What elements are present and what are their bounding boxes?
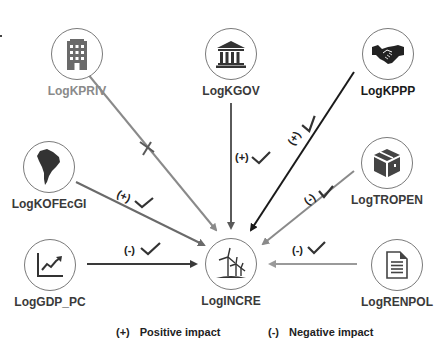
- edge-artifact: [0, 35, 2, 37]
- node-kgov: LogKGOV: [186, 28, 276, 98]
- check-icon-tropen: [319, 186, 333, 197]
- node-gdp: LogGDP_PC: [5, 239, 95, 309]
- box-icon: [373, 148, 401, 178]
- south-america-map-icon: [37, 149, 61, 185]
- node-circle: [23, 141, 75, 193]
- node-circle: [205, 238, 257, 290]
- check-icon-kofecgi: [135, 198, 153, 207]
- node-label: LogKGOV: [186, 84, 276, 98]
- node-circle: [205, 28, 257, 80]
- check-icon-kgov: [252, 152, 270, 163]
- check-icon-kppp: [301, 116, 317, 132]
- legend-positive-symbol: (+): [116, 326, 130, 338]
- check-icon-gdp: [141, 243, 160, 254]
- node-kofecgi: LogKOFEcGI: [4, 141, 94, 211]
- node-label: LogKPRIV: [32, 84, 122, 98]
- node-circle: [371, 239, 423, 291]
- legend-negative-text: Negative impact: [289, 326, 373, 338]
- check-icon-renpol: [308, 242, 325, 253]
- node-circle: [361, 137, 413, 189]
- legend-positive-text: Positive impact: [140, 326, 221, 338]
- annotation-renpol: (-): [292, 244, 303, 256]
- node-label: LogKOFEcGI: [4, 197, 94, 211]
- node-label: LogRENPOL: [352, 295, 440, 309]
- legend-negative-symbol: (-): [268, 326, 279, 338]
- node-tropen: LogTROPEN: [342, 137, 432, 207]
- document-icon: [386, 251, 408, 279]
- legend-negative: (-)Negative impact: [268, 326, 373, 338]
- building-icon: [64, 38, 90, 70]
- node-incre: LogINCRE: [186, 238, 276, 308]
- legend-positive: (+)Positive impact: [116, 326, 220, 338]
- annotation-kgov: (+): [235, 151, 249, 163]
- government-building-icon: [216, 40, 246, 68]
- node-kppp: LogKPPP: [343, 28, 433, 98]
- node-renpol: LogRENPOL: [352, 239, 440, 309]
- node-label: LogINCRE: [186, 294, 276, 308]
- node-circle: [51, 28, 103, 80]
- node-label: LogKPPP: [343, 84, 433, 98]
- node-kpriv: LogKPRIV: [32, 28, 122, 98]
- wind-turbine-icon: [214, 247, 248, 281]
- growth-chart-icon: [36, 252, 64, 278]
- impact-diagram: (+) (+) (+) (-) (-) (-) LogKPRIV: [0, 0, 440, 355]
- node-label: LogTROPEN: [342, 193, 432, 207]
- node-circle: [362, 28, 414, 80]
- annotation-gdp: (-): [124, 244, 135, 256]
- handshake-icon: [372, 43, 404, 65]
- node-label: LogGDP_PC: [5, 295, 95, 309]
- node-circle: [24, 239, 76, 291]
